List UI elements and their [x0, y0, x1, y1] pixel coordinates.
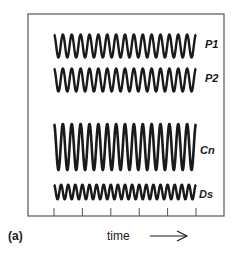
trace-p2 — [54, 69, 196, 92]
x-axis-label: time — [107, 229, 130, 243]
oscillation-chart: P1 P2 Cn Ds (a) time — [0, 0, 237, 256]
traces — [54, 35, 196, 200]
trace-ds — [54, 185, 196, 200]
trace-label-p2: P2 — [205, 72, 218, 84]
trace-label-ds: Ds — [199, 188, 213, 200]
x-axis-ticks — [54, 208, 196, 216]
trace-p1 — [54, 35, 196, 58]
trace-label-cn: Cn — [200, 144, 215, 156]
panel-label: (a) — [8, 229, 23, 243]
trace-cn — [54, 124, 196, 170]
time-arrow-icon — [150, 231, 187, 241]
trace-label-p1: P1 — [205, 38, 218, 50]
